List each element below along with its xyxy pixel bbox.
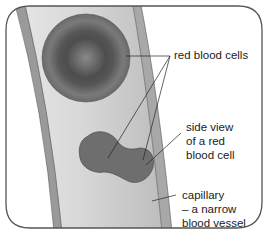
label-capillary-line3: blood vessel	[182, 217, 246, 230]
capillary-diagram	[0, 0, 264, 232]
label-side-view-line2: of a red	[186, 135, 225, 148]
label-side-view-line3: blood cell	[186, 149, 235, 162]
label-side-view-line1: side view	[186, 121, 233, 134]
red-blood-cell-face	[42, 14, 130, 102]
label-capillary-line1: capillary	[182, 189, 224, 202]
label-red-blood-cells: red blood cells	[174, 49, 248, 62]
label-capillary-line2: – a narrow	[182, 203, 236, 216]
